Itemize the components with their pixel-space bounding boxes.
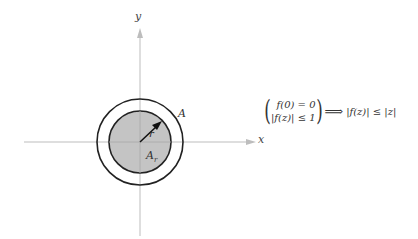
x-axis-label: x — [258, 133, 264, 146]
inner-disc-label: Ar — [146, 149, 157, 164]
condition-1: f(0) = 0 — [277, 98, 316, 111]
conclusion: |f(z)| ≤ |z| — [346, 106, 396, 117]
y-axis-label: y — [135, 10, 141, 23]
left-paren: ( — [264, 97, 271, 125]
inner-disc-label-main: A — [146, 149, 154, 162]
conditions: f(0) = 0 |f(z)| ≤ 1 — [271, 98, 316, 124]
inner-disc-label-sub: r — [154, 156, 157, 164]
implies-arrow: ⟹ — [324, 104, 343, 119]
right-paren: ) — [316, 97, 323, 125]
outer-circle-label: A — [178, 107, 186, 120]
schwarz-formula: ( f(0) = 0 |f(z)| ≤ 1 ) ⟹ |f(z)| ≤ |z| — [262, 96, 396, 126]
condition-2: |f(z)| ≤ 1 — [271, 111, 316, 124]
radius-label: r — [149, 128, 154, 139]
